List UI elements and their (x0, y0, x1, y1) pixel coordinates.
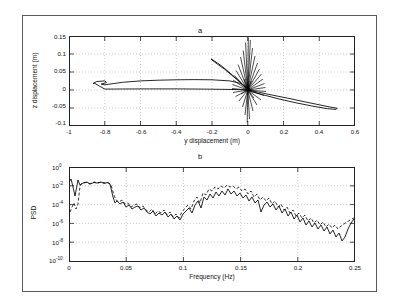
panel-a-ytick-5: -0.1 (40, 119, 66, 126)
panel-a-xtick-7: 0.4 (304, 128, 334, 135)
panel-a-xtick-5: 0 (233, 128, 263, 135)
panel-b-xtick-2: 0.1 (168, 264, 198, 271)
panel-b-ytick-2: 10-4 (52, 201, 63, 208)
panel-a-xlabel: y displacement (m) (142, 137, 282, 144)
panel-b-xtick-0: 0 (54, 264, 84, 271)
panel-b-title: b (180, 152, 220, 161)
panel-a-xtick-8: 0.6 (340, 128, 370, 135)
panel-a-xtick-2: -0.6 (126, 128, 156, 135)
panel-a-ylabel: z displacement (m) (31, 46, 38, 116)
panel-b-ytick-4: 10-8 (52, 239, 63, 246)
panel-a-ytick-4: -0.05 (40, 102, 66, 109)
panel-b-ytick-1: 10-2 (52, 182, 63, 189)
panel-b-xlabel: Frequency (Hz) (142, 273, 282, 280)
panel-a-ytick-2: 0.05 (40, 67, 66, 74)
panel-b-plot-area (69, 167, 355, 262)
panel-a-ytick-1: 0.1 (40, 50, 66, 57)
panel-b-ytick-3: 10-6 (52, 220, 63, 227)
panel-b-xtick-4: 0.2 (283, 264, 313, 271)
panel-b-xtick-3: 0.15 (226, 264, 256, 271)
panel-a-xtick-0: -1 (54, 128, 84, 135)
panel-b-ytick-5: 10-10 (49, 257, 63, 264)
panel-b-ytick-0: 100 (52, 164, 61, 171)
panel-a-xtick-4: -0.2 (197, 128, 227, 135)
panel-a-ytick-0: 0.15 (40, 33, 66, 40)
panel-a-xtick-1: -0.8 (90, 128, 120, 135)
panel-a-ytick-3: 0 (40, 85, 66, 92)
panel-a-title: a (180, 26, 220, 35)
figure-root: a z displacement (m) 0.15 0.1 0.05 0 -0.… (0, 0, 399, 308)
panel-a-xtick-6: 0.2 (269, 128, 299, 135)
panel-b-ylabel: PSD (30, 198, 37, 228)
panel-b-xtick-5: 0.25 (340, 264, 370, 271)
panel-b-xtick-1: 0.05 (111, 264, 141, 271)
panel-a-xtick-3: -0.4 (161, 128, 191, 135)
panel-a-plot-area (69, 36, 355, 126)
